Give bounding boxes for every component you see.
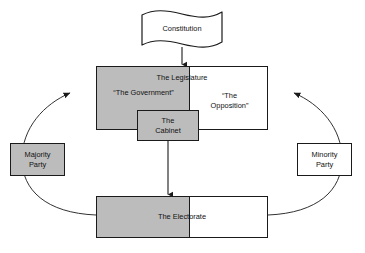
cabinet-label: The Cabinet [155, 116, 180, 136]
opposition-label-line2: Opposition” [191, 101, 268, 111]
node-majority-party[interactable]: Majority Party [10, 143, 65, 176]
node-minority-party[interactable]: Minority Party [297, 143, 352, 176]
electorate-label: The Electorate [97, 213, 267, 222]
node-electorate[interactable]: The Electorate [96, 196, 268, 238]
minority-party-label-line1: Minority [312, 150, 338, 160]
cabinet-label-line1: The [155, 116, 180, 126]
constitution-label: Constitution [140, 24, 224, 33]
legislature-opposition-label: “The Opposition” [191, 91, 268, 111]
minority-party-label-line2: Party [312, 160, 338, 170]
majority-party-label-line2: Party [25, 160, 51, 170]
opposition-label-line1: “The [191, 91, 268, 101]
legislature-title: The Legislature [97, 74, 267, 83]
minority-party-label: Minority Party [312, 150, 338, 170]
node-constitution[interactable]: Constitution [140, 9, 224, 49]
legislature-government-label: “The Government” [97, 89, 190, 98]
node-cabinet[interactable]: The Cabinet [137, 110, 199, 141]
diagram-canvas: Constitution The Legislature “The Govern… [0, 0, 365, 253]
cabinet-label-line2: Cabinet [155, 126, 180, 136]
majority-party-label: Majority Party [25, 150, 51, 170]
majority-party-label-line1: Majority [25, 150, 51, 160]
